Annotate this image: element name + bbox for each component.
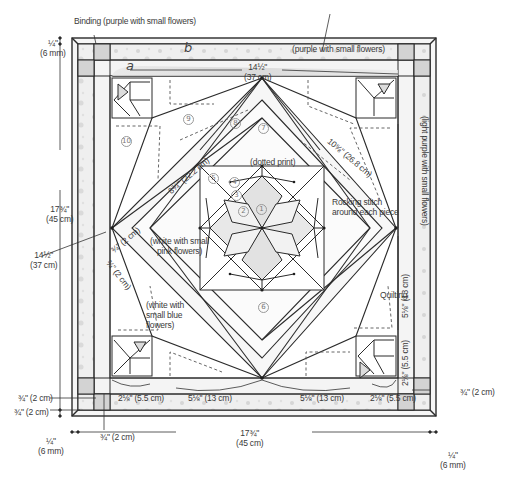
top-border-callout: (purple with small flowers) (292, 44, 385, 54)
white-blue-callout: (white withsmall blueflowers) (146, 300, 184, 330)
top-center-dim: 14½"(37 cm) (244, 62, 271, 82)
bottom-seg-mid-left-dim: 5⅛" (13 cm) (188, 393, 232, 403)
piece-number-9: 9 (183, 114, 194, 125)
piece-number-7: 7 (258, 123, 269, 134)
strip-letter-a: a (126, 58, 134, 73)
dotted-print-callout: (dotted print) (250, 157, 295, 167)
left-outer-dim: 17¾"(45 cm) (46, 204, 73, 224)
binding-tl-dim: ¼"(6 mm) (40, 38, 66, 58)
bottom-outer-dim: 17¾"(45 cm) (236, 428, 263, 448)
piece-number-1: 1 (256, 204, 267, 215)
left-inner-dim: 14½"(37 cm) (30, 250, 57, 270)
piece-number-3: 3 (231, 190, 242, 201)
right-border-callout: (light purple with small flowers) (420, 116, 430, 226)
piece-number-4: 4 (229, 177, 240, 188)
rocking-stitch-callout: Rocking stitcharound each piece (332, 197, 399, 217)
white-pink-callout: (white with smallpink flowers) (150, 236, 209, 256)
strip-letter-b: b (184, 40, 192, 55)
binding-br-dim: ¼"(6 mm) (440, 450, 466, 470)
piece-number-2: 2 (238, 206, 249, 217)
bottom-seg-left-dim: 2⅛" (5.5 cm) (118, 393, 164, 403)
binding-bl-dim: ¼"(6 mm) (38, 436, 64, 456)
piece-number-8: 8 (230, 118, 241, 129)
piece-number-5: 5 (208, 173, 219, 184)
piece-number-6: 6 (258, 302, 269, 313)
bottom-seg-right-dim: 2⅛" (5.5 cm) (370, 393, 416, 403)
bottom-strip-dim: ¾" (2 cm) (100, 432, 135, 442)
right-seg-upper-dim: 5⅛" (13 cm) (400, 274, 410, 318)
right-seg-lower-dim: 2⅛" (5.5 cm) (400, 340, 410, 386)
left-strip-dim-2: ¾" (2 cm) (14, 407, 49, 417)
piece-number-10: 10 (121, 136, 132, 147)
bottom-seg-mid-right-dim: 5⅛" (13 cm) (300, 393, 344, 403)
right-strip-dim: ¾" (2 cm) (460, 387, 495, 397)
left-strip-dim-1: ¾" (2 cm) (18, 393, 53, 403)
binding-callout: Binding (purple with small flowers) (74, 16, 196, 26)
